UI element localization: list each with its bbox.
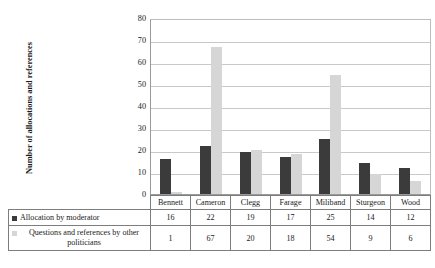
bar-questions — [330, 75, 341, 194]
y-tick-label: 10 — [124, 168, 146, 178]
table-row: Allocation by moderator16221917251412 — [9, 210, 431, 226]
y-tick-label: 20 — [124, 146, 146, 156]
value-cell: 22 — [191, 210, 231, 226]
bar-allocation — [399, 168, 410, 194]
y-tick-label: 50 — [124, 80, 146, 90]
bar-allocation — [359, 163, 370, 194]
data-table: BennettCameronCleggFarageMilibandSturgeo… — [8, 195, 431, 251]
bar-allocation — [319, 139, 330, 194]
category-header-cell: Cameron — [191, 196, 231, 210]
bar-group — [231, 20, 271, 194]
value-cell: 9 — [351, 226, 391, 251]
chart-figure: Number of allocations and references 807… — [0, 0, 435, 268]
value-cell: 67 — [191, 226, 231, 251]
bar-allocation — [280, 157, 291, 194]
bar-questions — [291, 154, 302, 194]
legend-cell: Questions and references by other politi… — [9, 226, 151, 251]
bar-questions — [171, 192, 182, 194]
table-row-categories: BennettCameronCleggFarageMilibandSturgeo… — [9, 196, 431, 210]
bar-allocation — [200, 146, 211, 194]
category-header-cell: Miliband — [311, 196, 351, 210]
y-tick-label: 80 — [124, 14, 146, 24]
value-cell: 14 — [351, 210, 391, 226]
value-cell: 20 — [231, 226, 271, 251]
plot-frame — [150, 19, 431, 195]
bar-group — [271, 20, 311, 194]
value-cell: 54 — [311, 226, 351, 251]
y-axis-title: Number of allocations and references — [22, 10, 38, 206]
bar-questions — [370, 174, 381, 194]
category-header-cell: Bennett — [151, 196, 191, 210]
bar-groups — [151, 20, 430, 194]
bar-group — [350, 20, 390, 194]
value-cell: 17 — [271, 210, 311, 226]
y-tick-label: 70 — [124, 36, 146, 46]
table-corner-cell — [9, 196, 151, 210]
bar-group — [310, 20, 350, 194]
category-header-cell: Clegg — [231, 196, 271, 210]
legend-label: Questions and references by other politi… — [20, 228, 148, 248]
bar-allocation — [240, 152, 251, 194]
y-axis-tick-labels: 80706050403020100 — [124, 13, 146, 201]
value-cell: 6 — [391, 226, 431, 251]
bar-group — [191, 20, 231, 194]
y-axis-title-text: Number of allocations and references — [22, 10, 38, 206]
value-cell: 19 — [231, 210, 271, 226]
bar-allocation — [160, 159, 171, 194]
bar-questions — [251, 150, 262, 194]
y-tick-label: 30 — [124, 124, 146, 134]
category-header-cell: Sturgeon — [351, 196, 391, 210]
bar-group — [151, 20, 191, 194]
value-cell: 12 — [391, 210, 431, 226]
light-square-icon — [12, 231, 17, 236]
value-cell: 16 — [151, 210, 191, 226]
data-table-body: BennettCameronCleggFarageMilibandSturgeo… — [9, 196, 431, 251]
legend-cell: Allocation by moderator — [9, 210, 151, 226]
y-tick-label: 40 — [124, 102, 146, 112]
bar-group — [390, 20, 430, 194]
category-header-cell: Farage — [271, 196, 311, 210]
bar-questions — [211, 47, 222, 194]
legend-label: Allocation by moderator — [20, 213, 148, 223]
table-row: Questions and references by other politi… — [9, 226, 431, 251]
plot-area — [150, 19, 431, 195]
value-cell: 25 — [311, 210, 351, 226]
value-cell: 18 — [271, 226, 311, 251]
category-header-cell: Wood — [391, 196, 431, 210]
dark-square-icon — [12, 216, 17, 221]
value-cell: 1 — [151, 226, 191, 251]
y-tick-label: 60 — [124, 58, 146, 68]
bar-questions — [410, 181, 421, 194]
